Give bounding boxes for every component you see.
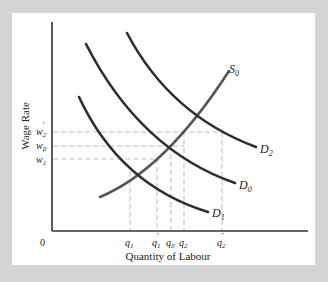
label-d1: D1 <box>211 206 225 222</box>
label-d2: D2 <box>259 142 273 158</box>
demand-curve-d0 <box>86 44 235 183</box>
guide-lines <box>53 132 222 231</box>
tick-q2: q2 <box>179 237 188 250</box>
tick-q0: q0 <box>166 237 175 250</box>
tick-q1-prime: q1′ <box>152 232 161 250</box>
origin-label: 0 <box>40 237 45 248</box>
curves <box>79 33 256 212</box>
supply-curve-s0 <box>100 71 229 197</box>
label-s0: S0 <box>229 62 239 78</box>
labour-market-diagram: S0 D2 D0 D1 w2′ w0 w1′ q1 q1′ q0 q2 q2′ … <box>0 0 328 282</box>
tick-q2-prime: q2′ <box>217 232 226 250</box>
demand-curve-d2 <box>127 33 256 147</box>
label-d0: D0 <box>238 178 252 194</box>
tick-w2-prime: w2′ <box>36 121 47 139</box>
y-axis-title: Wage Rate <box>19 102 31 150</box>
tick-q1: q1 <box>125 237 134 250</box>
demand-curve-d1 <box>79 97 208 212</box>
x-axis-title: Quantity of Labour <box>126 250 211 262</box>
